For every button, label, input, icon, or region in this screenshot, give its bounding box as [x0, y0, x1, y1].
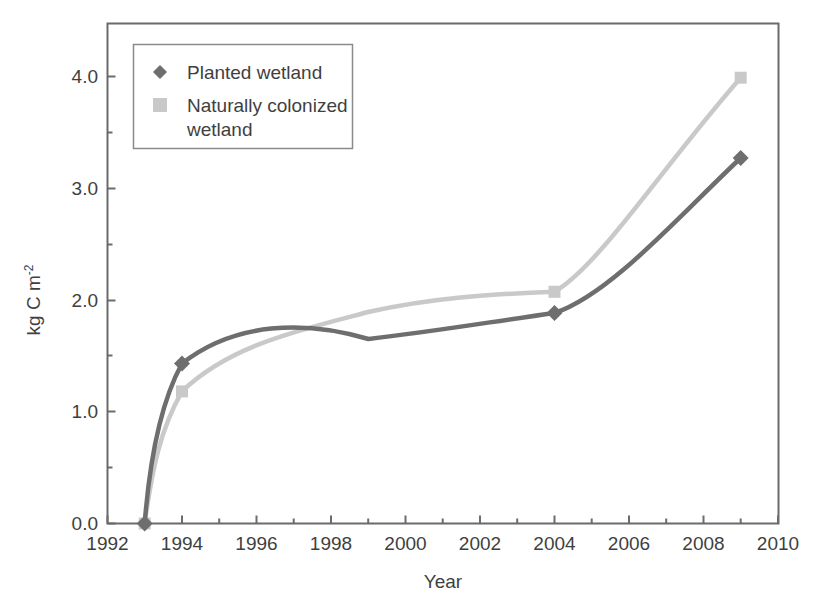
y-tick-label: 3.0 — [72, 178, 98, 199]
line-chart: 4.0 3.0 2.0 1.0 0.0 kg C m-2 — [0, 0, 816, 608]
data-point-marker — [549, 286, 561, 298]
x-tick-label: 2000 — [384, 533, 426, 554]
series-planted-wetland — [137, 150, 749, 532]
y-tick-label: 1.0 — [72, 401, 98, 422]
y-tick-label: 2.0 — [72, 290, 98, 311]
x-axis-title: Year — [424, 571, 463, 592]
x-tick-label: 1998 — [310, 533, 352, 554]
x-tick-label: 1996 — [235, 533, 277, 554]
data-point-marker — [547, 305, 563, 321]
legend-label-natural-line1: Naturally colonized — [187, 95, 348, 116]
y-axis-title-base: kg C m — [23, 275, 44, 335]
series-markers-diamond — [137, 150, 749, 532]
y-axis-tick-labels: 4.0 3.0 2.0 1.0 0.0 — [72, 66, 98, 534]
x-tick-label: 1994 — [161, 533, 204, 554]
x-tick-label: 2010 — [757, 533, 799, 554]
x-tick-label: 2008 — [682, 533, 724, 554]
x-tick-label: 2006 — [608, 533, 650, 554]
y-axis-major-ticks — [108, 77, 116, 524]
y-axis-title-exponent: -2 — [22, 264, 36, 275]
legend-label-planted: Planted wetland — [187, 62, 322, 83]
x-tick-label: 1992 — [86, 533, 128, 554]
svg-text:kg C m-2: kg C m-2 — [22, 264, 44, 335]
y-axis-title: kg C m-2 — [22, 264, 44, 335]
y-tick-label: 0.0 — [72, 513, 98, 534]
x-axis-tick-labels: 1992 1994 1996 1998 2000 2002 2004 2006 … — [86, 533, 799, 554]
y-tick-label: 4.0 — [72, 66, 98, 87]
data-point-marker — [735, 72, 747, 84]
x-tick-label: 2002 — [459, 533, 501, 554]
data-point-marker — [176, 385, 188, 397]
legend-square-marker-icon — [153, 98, 167, 112]
x-tick-label: 2004 — [533, 533, 576, 554]
chart-figure: 4.0 3.0 2.0 1.0 0.0 kg C m-2 — [0, 0, 816, 608]
chart-legend: Planted wetland Naturally colonized wetl… — [134, 45, 353, 149]
legend-label-natural-line2: wetland — [186, 119, 253, 140]
